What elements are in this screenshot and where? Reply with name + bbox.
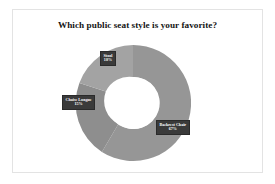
donut-hole <box>107 77 159 129</box>
slice-label-backrest-chair-percent: 67% <box>160 127 187 132</box>
chart-page: Which public seat style is your favorite… <box>0 0 275 184</box>
slice-label-backrest-chair: Backrest Chair 67% <box>156 120 190 135</box>
chart-title: Which public seat style is your favorite… <box>13 20 262 30</box>
slice-label-chaise-longue: Chaise Longue 15% <box>62 95 95 110</box>
slice-label-chaise-longue-percent: 15% <box>66 102 92 107</box>
slice-label-stool-percent: 18% <box>104 58 113 63</box>
slice-label-stool: Stool 18% <box>100 51 116 66</box>
